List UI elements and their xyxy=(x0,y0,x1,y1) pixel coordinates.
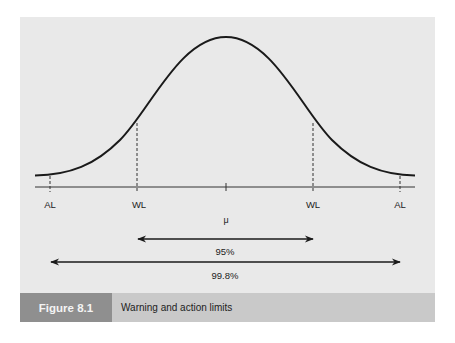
wl-right-label: WL xyxy=(306,199,320,210)
figure-caption: Figure 8.1 Warning and action limits xyxy=(20,293,435,322)
figure-title: Warning and action limits xyxy=(112,302,232,313)
normal-curve xyxy=(35,37,415,176)
figure-number: Figure 8.1 xyxy=(20,293,112,322)
range-95-label: 95% xyxy=(215,246,234,257)
wl-left-label: WL xyxy=(132,199,146,210)
al-left-label: AL xyxy=(44,199,56,210)
normal-distribution-diagram xyxy=(0,0,455,343)
al-right-label: AL xyxy=(394,199,406,210)
mu-label: μ xyxy=(223,215,228,225)
range-998-label: 99.8% xyxy=(212,270,239,281)
